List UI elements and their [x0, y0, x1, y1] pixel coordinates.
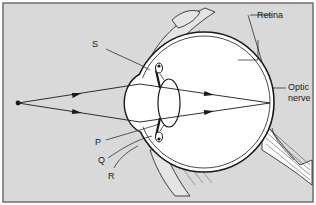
lens: [158, 79, 180, 127]
label-s: S: [92, 39, 98, 49]
ciliary-dot-lower: [157, 137, 160, 140]
label-q: Q: [98, 155, 105, 165]
eye-diagram: S P Q R Retina Optic nerve: [0, 0, 316, 205]
label-nerve: nerve: [288, 93, 311, 103]
label-p: P: [95, 137, 101, 147]
label-r: R: [108, 171, 115, 181]
object-point: [16, 101, 21, 106]
label-retina: Retina: [257, 10, 283, 20]
eye-diagram-svg: S P Q R Retina Optic nerve: [0, 0, 316, 205]
ciliary-dot-upper: [157, 64, 160, 67]
sclera: [134, 32, 274, 172]
label-optic: Optic: [288, 82, 310, 92]
